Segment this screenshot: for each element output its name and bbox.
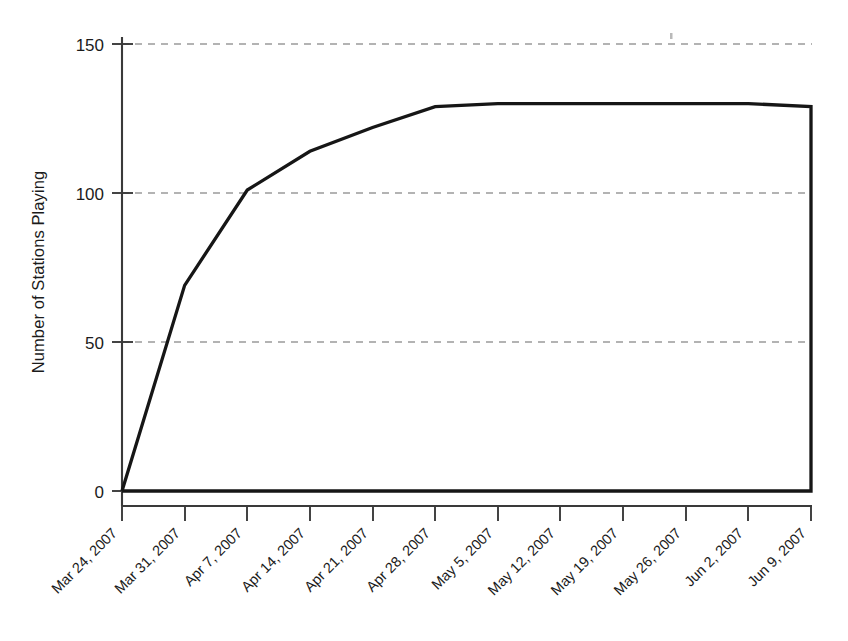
y-tick-labels: 150 100 50 0 (76, 36, 104, 502)
x-tick-label-may-26: May 26, 2007 (611, 525, 684, 598)
scan-artifact-speck (670, 33, 673, 39)
x-tick-label-may-5: May 5, 2007 (428, 525, 496, 593)
x-tick-label-apr-7: Apr 7, 2007 (181, 525, 245, 589)
x-tick-label-apr-14: Apr 14, 2007 (238, 525, 308, 595)
x-tick-label-jun-2: Jun 2, 2007 (681, 525, 746, 590)
x-tick-label-apr-28: Apr 28, 2007 (363, 525, 433, 595)
axis-spines (122, 37, 812, 506)
data-series-line (122, 104, 811, 491)
x-tick-label-apr-21: Apr 21, 2007 (301, 525, 371, 595)
x-tick-label-mar-31: Mar 31, 2007 (111, 525, 183, 597)
x-tickmarks (122, 506, 811, 521)
x-tick-label-mar-24: Mar 24, 2007 (48, 525, 120, 597)
y-tick-label-100: 100 (76, 185, 104, 204)
x-tick-labels: Mar 24, 2007 Mar 31, 2007 Apr 7, 2007 Ap… (48, 525, 809, 598)
gridlines (122, 44, 812, 342)
line-chart: 150 100 50 0 Number of Stations Playing … (0, 0, 848, 641)
x-tick-label-jun-9: Jun 9, 2007 (744, 525, 809, 590)
chart-container: 150 100 50 0 Number of Stations Playing … (0, 0, 848, 641)
y-tick-label-50: 50 (85, 334, 104, 353)
y-tick-label-0: 0 (95, 483, 104, 502)
y-axis-title: Number of Stations Playing (29, 171, 47, 374)
y-tick-label-150: 150 (76, 36, 104, 55)
